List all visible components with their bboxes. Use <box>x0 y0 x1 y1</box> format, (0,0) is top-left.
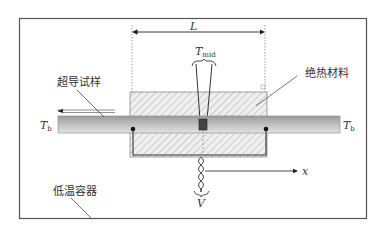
length-label: L <box>189 20 197 33</box>
sample-label: 超导试样 <box>57 75 101 89</box>
voltage-label: V <box>197 197 206 210</box>
current-arrow-head <box>57 109 63 113</box>
t-mid-label: Tmid <box>195 45 216 59</box>
superconductor-measurement-diagram: L Tmid x V Tb Tb 超导试样 绝热材料 低温容器 <box>0 0 381 230</box>
cryostat-label: 低温容器 <box>53 184 97 198</box>
insulation-corner-mark <box>261 85 265 89</box>
t-b-label-left: Tb <box>40 119 52 133</box>
insulation-label: 绝热材料 <box>305 66 349 80</box>
voltage-tap-right <box>264 127 269 132</box>
sample-leader-line <box>77 90 104 117</box>
voltage-tap-left <box>131 127 136 132</box>
thermocouple-junction <box>199 119 207 130</box>
t-b-label-right: Tb <box>343 119 355 133</box>
cryostat-leader-line <box>71 198 91 218</box>
insulation-leader-line <box>256 76 297 106</box>
x-axis-label: x <box>302 165 309 178</box>
